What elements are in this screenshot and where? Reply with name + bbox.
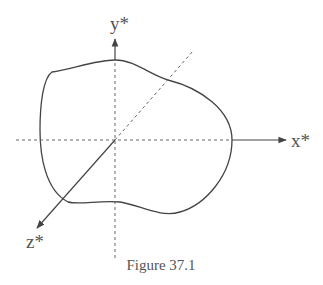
- z-axis-dashed: [115, 51, 193, 140]
- y-axis-label: y*: [110, 13, 129, 34]
- figure-caption: Figure 37.1: [126, 257, 195, 273]
- body-outline: [40, 60, 232, 214]
- z-axis-label: z*: [26, 231, 44, 252]
- figure-diagram: y* x* z* Figure 37.1: [0, 0, 323, 285]
- x-axis-label: x*: [291, 130, 310, 151]
- z-axis-arrow: [37, 140, 115, 228]
